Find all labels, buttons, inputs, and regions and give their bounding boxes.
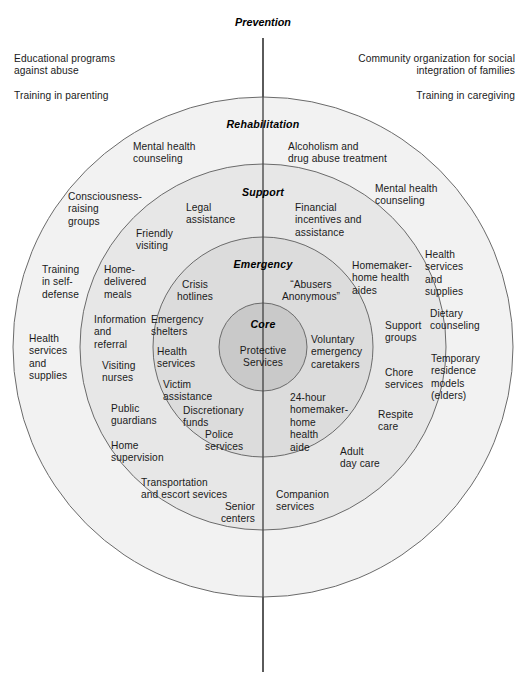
rehabilitation-item-temporary-residence-models-elders: Temporary residence models (elders) [431,353,503,403]
ring-title-emergency: Emergency [208,258,318,270]
outside-item-community-organization: Community organization for social integr… [315,53,515,78]
support-item-information-and-referral: Information and referral [94,314,168,351]
support-item-adult-day-care: Adult day care [340,446,404,471]
rehabilitation-item-consciousness-raising-groups: Consciousness- raising groups [68,191,162,228]
emergency-item-police-services: Police services [205,429,267,454]
rehabilitation-item-dietary-counseling: Dietary counseling [430,308,502,333]
ring-title-rehabilitation: Rehabilitation [193,118,333,130]
rehabilitation-item-mental-health-counseling-right: Mental health counseling [375,183,469,208]
support-item-home-supervision: Home supervision [111,440,191,465]
support-item-public-guardians: Public guardians [111,403,177,428]
ring-title-support: Support [213,186,313,198]
rehabilitation-item-health-services-and-supplies-left: Health services and supplies [29,333,91,383]
outside-item-training-in-caregiving: Training in caregiving [315,90,515,102]
rehabilitation-item-training-in-self-defense: Training in self- defense [42,264,104,301]
emergency-item-victim-assistance: Victim assistance [163,379,237,404]
rehabilitation-item-alcoholism-drug-abuse-treatment: Alcoholism and drug abuse treatment [288,141,408,166]
support-item-financial-incentives-and-assistance: Financial incentives and assistance [295,202,387,239]
support-item-companion-services: Companion services [276,489,354,514]
core-item-protective-services: Protective Services [221,345,305,370]
rehabilitation-item-health-services-and-supplies-right: Health services and supplies [425,249,487,299]
diagram-canvas: Prevention Educational programs against … [0,0,527,692]
emergency-item-crisis-hotlines: Crisis hotlines [164,279,226,304]
support-item-friendly-visiting: Friendly visiting [136,228,198,253]
emergency-item-voluntary-emergency-caretakers: Voluntary emergency caretakers [311,334,387,371]
emergency-item-discretionary-funds: Discretionary funds [183,405,263,430]
prevention-title: Prevention [213,16,313,28]
support-item-senior-centers: Senior centers [171,501,255,526]
outside-item-educational-programs: Educational programs against abuse [14,53,194,78]
support-item-legal-assistance: Legal assistance [186,202,250,227]
support-item-transportation-and-escort-services: Transportation and escort sevices [141,477,251,502]
support-item-respite-care: Respite care [378,409,436,434]
rehabilitation-item-mental-health-counseling-left: Mental health counseling [133,141,227,166]
support-item-visiting-nurses: Visiting nurses [102,360,164,385]
support-item-homemaker-home-health-aides: Homemaker- home health aides [352,260,436,297]
emergency-item-24-hour-homemaker-home-health-aide: 24-hour homemaker- home health aide [290,392,362,454]
outside-item-training-in-parenting: Training in parenting [14,90,194,102]
ring-title-core: Core [228,318,298,330]
support-item-home-delivered-meals: Home- delivered meals [104,264,170,301]
emergency-item-abusers-anonymous: “Abusers Anonymous” [268,279,354,304]
